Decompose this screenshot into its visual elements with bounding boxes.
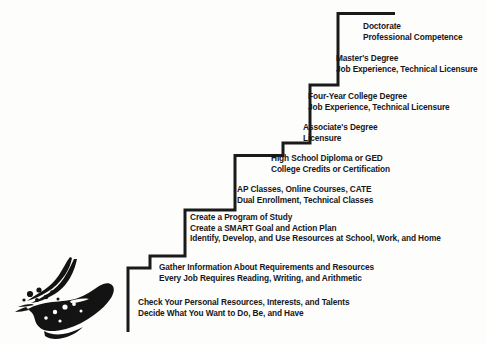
step-line: College Credits or Certification [271, 164, 390, 175]
step-line: Associate's Degree [303, 122, 377, 133]
step-line: Create a SMART Goal and Action Plan [190, 223, 441, 234]
step-line: Every Job Requires Reading, Writing, and… [159, 273, 374, 284]
step-line: AP Classes, Online Courses, CATE [237, 184, 373, 195]
decorative-graphic [8, 255, 126, 343]
step-label-check-personal-resources: Check Your Personal Resources, Interests… [138, 297, 349, 318]
step-line: High School Diploma or GED [271, 153, 390, 164]
step-label-high-school-diploma: High School Diploma or GED College Credi… [271, 153, 390, 174]
step-line: Check Your Personal Resources, Interests… [138, 297, 349, 308]
step-line: Four-Year College Degree [308, 91, 450, 102]
staircase-diagram: Doctorate Professional Competence Master… [0, 0, 487, 344]
step-line: Create a Program of Study [190, 212, 441, 223]
step-label-four-year-college: Four-Year College Degree Job Experience,… [308, 91, 450, 112]
step-line: Dual Enrollment, Technical Classes [237, 195, 373, 206]
step-label-ap-classes: AP Classes, Online Courses, CATE Dual En… [237, 184, 373, 205]
step-label-associates: Associate's Degree Licensure [303, 122, 377, 143]
step-line: Gather Information About Requirements an… [159, 262, 374, 273]
step-label-doctorate: Doctorate Professional Competence [363, 21, 463, 42]
step-line: Decide What You Want to Do, Be, and Have [138, 308, 349, 319]
step-line: Doctorate [363, 21, 463, 32]
step-label-gather-information: Gather Information About Requirements an… [159, 262, 374, 283]
step-line: Licensure [303, 133, 377, 144]
step-line: Professional Competence [363, 32, 463, 43]
step-label-masters: Master's Degree Job Experience, Technica… [336, 53, 478, 74]
step-line: Identify, Develop, and Use Resources at … [190, 233, 441, 244]
step-line: Job Experience, Technical Licensure [336, 64, 478, 75]
step-line: Job Experience, Technical Licensure [308, 102, 450, 113]
step-label-program-of-study: Create a Program of Study Create a SMART… [190, 212, 441, 244]
step-line: Master's Degree [336, 53, 478, 64]
